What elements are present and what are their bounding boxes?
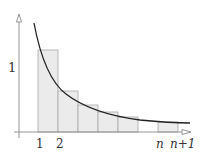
rectangle-1	[38, 50, 58, 132]
x-tick-label-n: n	[156, 137, 164, 151]
riemann-sum-diagram: 1 1 2 n n+1	[0, 0, 201, 155]
riemann-rectangles	[38, 50, 178, 132]
y-axis-arrow-icon	[17, 14, 22, 22]
y-tick-label-1: 1	[8, 60, 16, 75]
x-axis-arrow-icon	[182, 130, 191, 135]
rectangle-n	[158, 122, 178, 132]
x-tick-label-n-plus-1: n+1	[170, 137, 195, 151]
rectangle-2	[58, 91, 78, 132]
x-tick-label-1: 1	[36, 137, 44, 151]
x-tick-label-2: 2	[56, 137, 64, 151]
